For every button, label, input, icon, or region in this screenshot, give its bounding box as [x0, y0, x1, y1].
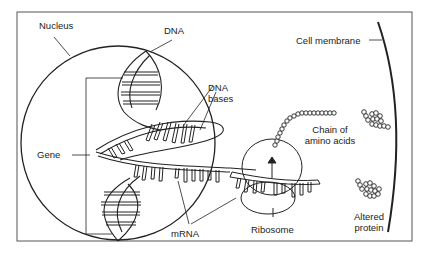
label-altered-1: Altered	[349, 211, 389, 222]
altered-protein	[356, 179, 382, 199]
dna-upper-helix	[118, 40, 172, 130]
nucleus-pointer	[54, 37, 70, 56]
label-dna: DNA	[164, 25, 184, 36]
label-chain-2: amino acids	[300, 135, 360, 146]
folded-protein	[362, 110, 391, 130]
ribosome	[230, 139, 320, 217]
mrna-strand	[96, 152, 256, 224]
label-mrna: mRNA	[171, 228, 199, 239]
dna-middle-ribbon	[96, 86, 223, 160]
label-ribosome: Ribosome	[251, 224, 294, 235]
label-nucleus: Nucleus	[39, 20, 73, 31]
label-dna-bases-1: DNA	[208, 82, 228, 93]
diagram-canvas: Nucleus DNA DNA bases Gene mRNA Ribosome…	[0, 0, 426, 262]
label-gene: Gene	[37, 149, 60, 160]
dna-lower-helix	[101, 176, 141, 241]
mrna-pointer-2	[191, 198, 236, 224]
label-altered-2: protein	[349, 222, 389, 233]
label-chain-1: Chain of	[300, 124, 360, 135]
label-dna-bases-2: bases	[208, 93, 233, 104]
label-cell-membrane: Cell membrane	[296, 35, 360, 46]
